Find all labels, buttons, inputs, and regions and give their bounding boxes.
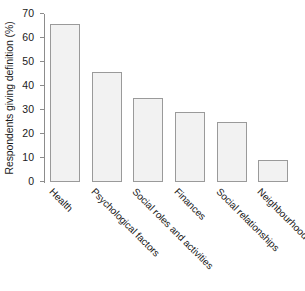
- x-axis-label: Psychological factors: [89, 186, 162, 259]
- y-tick: 60: [40, 37, 44, 38]
- y-tick-label: 60: [22, 31, 34, 43]
- y-tick: 40: [40, 85, 44, 86]
- y-axis-title: Respondents giving definition (%): [2, 3, 16, 193]
- y-tick-label: 40: [22, 79, 34, 91]
- bar: [133, 98, 163, 182]
- y-tick: 70: [40, 13, 44, 14]
- bar: [50, 24, 80, 182]
- y-tick-label: 70: [22, 7, 34, 19]
- bar: [92, 72, 122, 182]
- y-tick-label: 30: [22, 103, 34, 115]
- bar: [175, 112, 205, 182]
- bar: [217, 122, 247, 182]
- y-tick: 50: [40, 61, 44, 62]
- y-tick-label: 10: [22, 151, 34, 163]
- x-axis-label: Finances: [172, 186, 208, 222]
- x-axis-label: Health: [47, 186, 75, 214]
- y-axis-line: [44, 14, 45, 183]
- y-tick-label: 50: [22, 55, 34, 67]
- plot-area: 010203040506070: [44, 14, 294, 182]
- bar: [258, 160, 288, 182]
- y-tick-label: 0: [28, 175, 34, 187]
- y-tick: 30: [40, 109, 44, 110]
- y-tick: 10: [40, 157, 44, 158]
- y-tick: 20: [40, 133, 44, 134]
- y-tick-label: 20: [22, 127, 34, 139]
- y-tick: 0: [40, 181, 44, 182]
- bar-chart-figure: Respondents giving definition (%) 010203…: [0, 0, 305, 291]
- x-axis-label: Social roles and activities: [130, 186, 215, 271]
